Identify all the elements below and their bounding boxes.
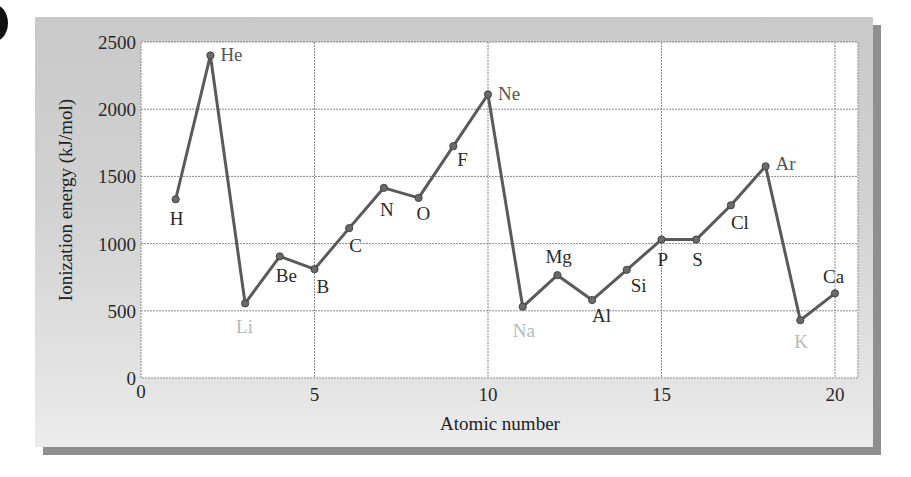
element-label-f: F <box>457 149 468 170</box>
element-label-p: P <box>658 249 669 270</box>
data-point-marker <box>380 184 387 191</box>
data-point-marker <box>276 253 283 260</box>
element-label-c: C <box>349 235 362 256</box>
data-point-marker <box>797 317 804 324</box>
x-tick-label: 0 <box>136 381 146 402</box>
data-point-marker <box>727 202 734 209</box>
data-point-marker <box>172 196 179 203</box>
element-label-n: N <box>380 199 394 220</box>
element-label-o: O <box>417 203 431 224</box>
figure-stage: 05001000150020002500 05101520 HHeLiBeBCN… <box>0 0 911 477</box>
element-label-b: B <box>317 276 330 297</box>
element-label-s: S <box>692 249 703 270</box>
data-point-marker <box>589 296 596 303</box>
element-label-h: H <box>170 208 184 229</box>
data-point-marker <box>207 52 214 59</box>
element-label-na: Na <box>513 320 536 341</box>
element-label-ca: Ca <box>823 266 845 287</box>
x-tick-label: 10 <box>479 384 498 405</box>
y-tick-label: 500 <box>108 301 137 322</box>
data-point-marker <box>623 266 630 273</box>
y-tick-label: 2500 <box>98 32 136 53</box>
element-label-cl: Cl <box>731 212 749 233</box>
y-tick-label: 1500 <box>98 166 136 187</box>
data-point-marker <box>519 303 526 310</box>
element-label-mg: Mg <box>545 246 572 267</box>
x-axis-title: Atomic number <box>440 413 560 434</box>
y-axis-ticks: 05001000150020002500 <box>98 32 136 389</box>
data-point-marker <box>242 300 249 307</box>
data-point-marker <box>831 290 838 297</box>
element-label-li: Li <box>236 316 253 337</box>
data-point-marker <box>693 236 700 243</box>
data-point-marker <box>311 266 318 273</box>
x-axis-ticks: 05101520 <box>136 381 844 405</box>
element-label-he: He <box>220 44 242 65</box>
data-point-marker <box>450 143 457 150</box>
x-tick-label: 20 <box>826 384 845 405</box>
element-label-k: K <box>794 331 808 352</box>
data-point-marker <box>346 225 353 232</box>
y-tick-label: 0 <box>127 368 137 389</box>
y-axis-title: Ionization energy (kJ/mol) <box>55 99 77 301</box>
x-tick-label: 5 <box>310 384 320 405</box>
y-tick-label: 1000 <box>98 234 136 255</box>
data-point-marker <box>554 272 561 279</box>
element-label-ne: Ne <box>498 83 520 104</box>
data-point-marker <box>762 163 769 170</box>
element-label-al: Al <box>592 305 611 326</box>
element-label-be: Be <box>276 265 297 286</box>
ionization-energy-chart: 05001000150020002500 05101520 HHeLiBeBCN… <box>0 0 911 477</box>
data-point-marker <box>484 91 491 98</box>
x-tick-label: 15 <box>652 384 671 405</box>
element-label-ar: Ar <box>776 153 797 174</box>
data-point-marker <box>415 194 422 201</box>
data-point-marker <box>658 236 665 243</box>
element-label-si: Si <box>631 275 647 296</box>
y-tick-label: 2000 <box>98 99 136 120</box>
